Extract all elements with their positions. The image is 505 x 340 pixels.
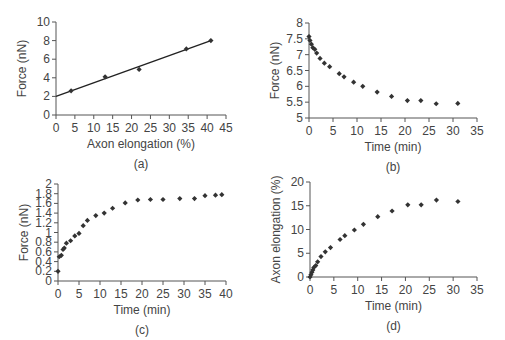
data-point-marker xyxy=(81,223,86,228)
data-point-marker xyxy=(342,233,347,238)
data-point-marker xyxy=(323,249,328,254)
y-tick-label: 6 xyxy=(296,79,303,93)
chart-panel-d: 0510152005101520253035Time (min)Axon elo… xyxy=(269,175,484,333)
y-tick-label: 2 xyxy=(43,89,50,103)
y-tick-label: 7 xyxy=(296,48,303,62)
y-axis-title: Axon elongation (%) xyxy=(269,175,283,283)
chart-panel-b: 55.566.577.5805101520253035Time (min)For… xyxy=(268,16,484,174)
data-point-marker xyxy=(455,101,460,106)
x-tick-label: 35 xyxy=(198,287,212,301)
data-point-marker xyxy=(160,197,165,202)
y-tick-label: 5 xyxy=(297,246,304,260)
data-point-marker xyxy=(434,197,439,202)
x-tick-label: 5 xyxy=(72,121,79,135)
data-point-marker xyxy=(68,238,73,243)
data-point-marker xyxy=(213,193,218,198)
data-point-marker xyxy=(375,89,380,94)
y-tick-label: 6 xyxy=(43,52,50,66)
x-axis-title: Time (min) xyxy=(365,140,422,154)
data-point-marker xyxy=(328,245,333,250)
y-tick-label: 6.5 xyxy=(286,64,303,78)
panel-label: (a) xyxy=(134,157,149,171)
data-point-marker xyxy=(455,199,460,204)
data-point-marker xyxy=(135,197,140,202)
data-point-marker xyxy=(202,193,207,198)
x-tick-label: 10 xyxy=(87,121,101,135)
data-point-marker xyxy=(110,206,115,211)
x-tick-label: 35 xyxy=(470,283,484,297)
y-tick-label: 10 xyxy=(37,15,51,29)
y-tick-label: 8 xyxy=(43,34,50,48)
x-tick-label: 30 xyxy=(177,287,191,301)
y-axis-title: Force (nN) xyxy=(268,42,282,99)
y-tick-label: 8 xyxy=(296,16,303,30)
x-tick-label: 20 xyxy=(399,283,413,297)
x-tick-label: 25 xyxy=(144,121,158,135)
x-tick-label: 0 xyxy=(306,124,313,138)
y-tick-label: 2 xyxy=(45,177,52,191)
data-point-marker xyxy=(418,98,423,103)
data-point-marker xyxy=(327,64,332,69)
x-axis-title: Time (min) xyxy=(114,303,171,317)
y-tick-label: 0 xyxy=(43,108,50,122)
data-point-marker xyxy=(219,192,224,197)
x-tick-label: 25 xyxy=(422,124,436,138)
x-tick-label: 35 xyxy=(470,124,484,138)
x-tick-label: 35 xyxy=(182,121,196,135)
y-tick-label: 10 xyxy=(291,223,305,237)
x-axis-title: Axon elongation (%) xyxy=(87,137,195,151)
data-point-marker xyxy=(317,56,322,61)
panel-label: (c) xyxy=(135,323,149,337)
x-tick-label: 15 xyxy=(114,287,128,301)
x-tick-label: 10 xyxy=(93,287,107,301)
data-point-marker xyxy=(318,254,323,259)
data-point-marker xyxy=(361,222,366,227)
data-point-marker xyxy=(405,98,410,103)
x-tick-label: 20 xyxy=(125,121,139,135)
data-point-marker xyxy=(322,61,327,66)
panel-label: (b) xyxy=(386,160,401,174)
x-tick-label: 15 xyxy=(375,283,389,297)
data-point-marker xyxy=(93,213,98,218)
chart-panel-c: 00.20.40.60.811.21.41.61.820510152025303… xyxy=(17,177,233,337)
x-tick-label: 25 xyxy=(156,287,170,301)
x-tick-label: 0 xyxy=(55,287,62,301)
y-tick-label: 0 xyxy=(297,270,304,284)
x-tick-label: 5 xyxy=(331,283,338,297)
x-tick-label: 10 xyxy=(350,124,364,138)
data-point-marker xyxy=(72,233,77,238)
x-tick-label: 40 xyxy=(200,121,214,135)
y-tick-label: 5 xyxy=(296,111,303,125)
data-point-marker xyxy=(208,38,213,43)
y-tick-label: 5.5 xyxy=(286,95,303,109)
x-tick-label: 20 xyxy=(398,124,412,138)
y-axis-title: Force (nN) xyxy=(15,40,29,97)
x-tick-label: 10 xyxy=(351,283,365,297)
data-point-marker xyxy=(76,231,81,236)
y-tick-label: 7.5 xyxy=(286,32,303,46)
x-tick-label: 30 xyxy=(446,124,460,138)
x-tick-label: 20 xyxy=(135,287,149,301)
x-tick-label: 15 xyxy=(106,121,120,135)
data-point-marker xyxy=(69,88,74,93)
data-point-marker xyxy=(64,241,69,246)
data-point-marker xyxy=(360,84,365,89)
data-point-marker xyxy=(389,94,394,99)
data-point-marker xyxy=(389,208,394,213)
data-point-marker xyxy=(351,80,356,85)
data-point-marker xyxy=(419,202,424,207)
data-point-marker xyxy=(192,196,197,201)
x-tick-label: 15 xyxy=(374,124,388,138)
data-point-marker xyxy=(85,218,90,223)
data-point-marker xyxy=(55,269,60,274)
x-tick-label: 25 xyxy=(423,283,437,297)
panel-label: (d) xyxy=(386,319,401,333)
chart-panel-a: 0246810051015202530354045Axon elongation… xyxy=(15,15,233,171)
data-point-marker xyxy=(352,227,357,232)
x-tick-label: 30 xyxy=(446,283,460,297)
data-point-marker xyxy=(405,202,410,207)
x-tick-label: 40 xyxy=(219,287,233,301)
y-tick-label: 4 xyxy=(43,71,50,85)
data-point-marker xyxy=(375,214,380,219)
y-tick-label: 15 xyxy=(291,199,305,213)
